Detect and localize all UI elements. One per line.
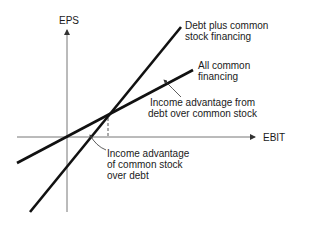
common-line-label-2: financing xyxy=(198,71,238,82)
debt-plus-common-line xyxy=(30,27,181,212)
debt-line-label-1: Debt plus common xyxy=(185,20,268,31)
y-axis-label: EPS xyxy=(59,15,79,26)
x-axis-label: EBIT xyxy=(263,132,285,143)
common-advantage-text-2: of common stock xyxy=(107,159,183,170)
common-line-label-1: All common xyxy=(198,60,250,71)
debt-line-label-2: stock financing xyxy=(185,31,251,42)
common-advantage-text-3: over debt xyxy=(107,170,149,181)
debt-advantage-text-2: debt over common stock xyxy=(148,108,257,119)
common-advantage-text-1: Income advantage xyxy=(107,148,189,159)
debt-advantage-leader xyxy=(164,80,181,97)
debt-advantage-text-1: Income advantage from xyxy=(150,97,255,108)
